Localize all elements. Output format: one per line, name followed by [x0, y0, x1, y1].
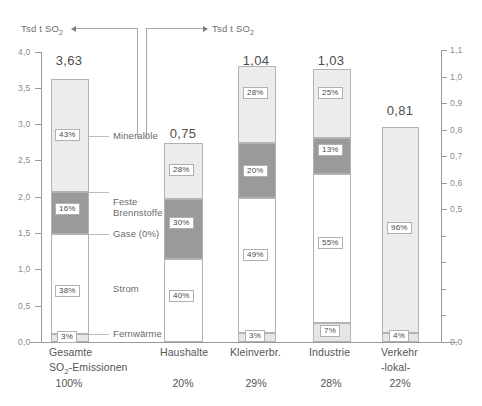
legend-label-gase: Gase (0%)	[113, 228, 159, 240]
category-label-verkehr-line2: -lokal-	[381, 361, 410, 374]
category-label-gesamt-line1: Gesamte	[49, 346, 92, 359]
category-share-verkehr: 22%	[369, 377, 431, 390]
right-tick-label-0.5: 0,5	[450, 205, 462, 214]
category-label-verkehr-line1: Verkehr	[381, 346, 418, 359]
left-unit-connector-h	[76, 28, 137, 29]
right-axis-line	[441, 50, 442, 342]
right-unit-arrow-icon	[203, 26, 208, 32]
left-axis-unit-label: Tsd t SO2	[21, 24, 63, 36]
pct-label-feste-gesamt: 16%	[55, 203, 80, 215]
category-share-industrie: 28%	[300, 377, 362, 390]
left-tick-4.0	[35, 52, 41, 53]
pct-label-strom-kleinverbraucher: 49%	[243, 249, 268, 261]
legend-label-feste-line1: Feste	[113, 196, 137, 208]
left-unit-connector-v	[137, 28, 138, 138]
left-tick-label-2.0: 2,0	[18, 193, 30, 202]
pct-label-mineraloele-kleinverbraucher: 28%	[243, 87, 268, 99]
right-tick-0.0	[441, 342, 447, 343]
left-tick-label-0.0: 0,0	[18, 338, 30, 347]
right-tick-0.6	[441, 183, 447, 184]
segment-feste-brennstoffe-haushalte[interactable]	[164, 199, 203, 259]
right-tick-0.4	[441, 236, 446, 237]
left-tick-label-2.5: 2,5	[18, 156, 30, 165]
pct-label-mineraloele-industrie: 25%	[318, 87, 343, 99]
leader-gase	[89, 234, 109, 235]
right-tick-label-0.7: 0,7	[450, 152, 462, 161]
pct-label-fernwaerme-verkehr: 4%	[389, 330, 409, 342]
pct-label-fernwaerme-kleinverbraucher: 3%	[245, 330, 265, 342]
left-tick-3.5	[35, 88, 41, 89]
segment-mineraloele-kleinverbraucher[interactable]	[238, 66, 276, 143]
pct-label-mineraloele-haushalte: 28%	[169, 164, 194, 176]
left-tick-2.5	[35, 160, 41, 161]
pct-label-feste-kleinverbraucher: 20%	[243, 165, 268, 177]
pct-label-mineraloele-gesamt: 43%	[55, 129, 80, 141]
baseline	[30, 342, 457, 343]
left-tick-3.0	[35, 124, 41, 125]
left-tick-0.5	[35, 306, 41, 307]
bar-total-verkehr: 0,81	[369, 104, 431, 117]
left-tick-1.0	[35, 269, 41, 270]
segment-strom-kleinverbraucher[interactable]	[238, 198, 276, 333]
pct-label-feste-industrie: 13%	[318, 144, 343, 156]
left-tick-label-0.5: 0,5	[18, 302, 30, 311]
pct-label-mineraloele-verkehr: 96%	[387, 222, 412, 234]
category-share-gesamt: 100%	[38, 377, 100, 390]
left-axis-line	[41, 52, 42, 342]
legend-label-strom: Strom	[113, 283, 139, 295]
leader-feste	[89, 192, 109, 193]
pct-label-fernwaerme-industrie: 7%	[320, 325, 340, 337]
category-share-kleinverbraucher: 29%	[225, 377, 287, 390]
right-tick-label-0.9: 0,9	[450, 99, 462, 108]
category-label-kleinverbraucher: Kleinverbr.	[230, 346, 281, 359]
category-label-industrie: Industrie	[309, 346, 350, 359]
right-unit-connector-h	[146, 28, 203, 29]
pct-label-feste-haushalte: 30%	[169, 217, 194, 229]
pct-label-fernwaerme-gesamt: 3%	[57, 331, 77, 343]
right-tick-0.7	[441, 156, 447, 157]
right-tick-0.9	[441, 103, 447, 104]
right-tick-label-0.8: 0,8	[450, 126, 462, 135]
left-tick-1.5	[35, 233, 41, 234]
left-tick-2.0	[35, 197, 41, 198]
chart-root: Tsd t SO2 Tsd t SO2 4,0 3,5 3,0 2,5 2,0 …	[0, 0, 482, 406]
right-tick-label-1.1: 1,1	[450, 46, 462, 55]
right-tick-1.0	[441, 77, 447, 78]
right-tick-label-0.0: 0,0	[450, 338, 462, 347]
legend-label-fernwaerme: Fernwärme	[113, 328, 162, 340]
right-tick-0.3	[441, 262, 446, 263]
segment-mineraloele-industrie[interactable]	[313, 69, 351, 138]
left-tick-label-3.0: 3,0	[18, 120, 30, 129]
right-tick-label-1.0: 1,0	[450, 73, 462, 82]
pct-label-strom-haushalte: 40%	[169, 290, 194, 302]
left-unit-arrow-icon	[71, 26, 76, 32]
right-tick-0.5	[441, 209, 447, 210]
left-tick-label-3.5: 3,5	[18, 84, 30, 93]
right-tick-0.1	[441, 315, 446, 316]
left-tick-label-1.0: 1,0	[18, 265, 30, 274]
leader-mineraloele	[89, 136, 109, 137]
category-label-gesamt-line2: SO2-Emissionen	[49, 361, 128, 378]
category-label-haushalte: Haushalte	[160, 346, 208, 359]
right-axis-unit-label: Tsd t SO2	[212, 24, 254, 36]
legend-label-feste-line2: Brennstoffe	[113, 207, 163, 219]
pct-label-strom-industrie: 55%	[318, 237, 343, 249]
right-tick-label-0.6: 0,6	[450, 179, 462, 188]
leader-fernwaerme	[89, 334, 109, 335]
segment-strom-gesamt[interactable]	[51, 234, 89, 334]
right-tick-1.1	[441, 50, 447, 51]
left-tick-label-1.5: 1,5	[18, 229, 30, 238]
bar-total-industrie: 1,03	[300, 54, 362, 67]
category-share-haushalte: 20%	[152, 377, 214, 390]
right-unit-connector-v	[146, 28, 147, 138]
right-tick-0.8	[441, 130, 447, 131]
bar-total-gesamt: 3,63	[38, 54, 100, 67]
right-tick-0.2	[441, 289, 446, 290]
bar-total-haushalte: 0,75	[152, 127, 214, 140]
left-tick-label-4.0: 4,0	[18, 48, 30, 57]
pct-label-strom-gesamt: 38%	[55, 285, 80, 297]
